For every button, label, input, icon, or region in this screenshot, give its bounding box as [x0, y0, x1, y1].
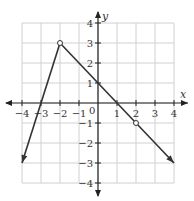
- origin-label: 0: [89, 105, 95, 116]
- x-tick-label: −2: [53, 108, 68, 119]
- curve-arrow-icon: [22, 154, 28, 163]
- y-tick-label: 2: [87, 58, 93, 69]
- y-tick-label: −2: [78, 138, 93, 149]
- y-tick-label: 3: [87, 38, 93, 49]
- x-axis-label: x: [180, 88, 187, 101]
- x-axis-arrow-left-icon: [5, 100, 12, 106]
- x-tick-label: −4: [15, 108, 30, 119]
- open-circle-point: [134, 121, 139, 126]
- y-axis-arrow-up-icon: [95, 11, 101, 18]
- coordinate-graph: −4−3−2−11234−4−3−2−11234 x y 0: [0, 0, 194, 201]
- y-tick-label: 4: [87, 18, 93, 29]
- x-tick-label: 1: [114, 108, 120, 119]
- y-tick-label: 1: [87, 78, 93, 89]
- y-tick-label: −3: [78, 158, 93, 169]
- axes: [5, 11, 188, 197]
- x-tick-label: 4: [171, 108, 177, 119]
- open-circle-point: [58, 41, 63, 46]
- x-tick-label: 3: [152, 108, 158, 119]
- y-tick-label: −4: [78, 178, 93, 189]
- y-axis-arrow-down-icon: [95, 190, 101, 197]
- x-tick-label: 2: [133, 108, 139, 119]
- y-tick-label: −1: [78, 118, 93, 129]
- y-axis-label: y: [101, 10, 109, 23]
